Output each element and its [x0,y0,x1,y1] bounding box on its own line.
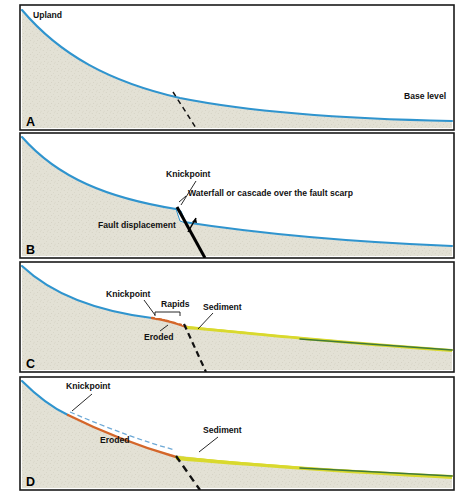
panel-c-label-rapids: Rapids [161,299,190,309]
panel-c: Knickpoint Rapids Eroded Sediment C [20,262,454,372]
panel-b-label-fault-displacement: Fault displacement [98,220,176,230]
panel-b: Knickpoint Waterfall or cascade over the… [20,133,454,258]
panel-c-label-sediment: Sediment [203,302,242,312]
panel-c-label-knickpoint: Knickpoint [106,289,151,299]
panel-d-label-knickpoint: Knickpoint [66,381,111,391]
panel-b-letter: B [26,243,35,257]
panel-a-label-upland: Upland [33,10,62,20]
panel-b-label-waterfall: Waterfall or cascade over the fault scar… [188,188,353,198]
panel-d: Knickpoint Eroded Sediment D [20,377,454,490]
panel-a-letter: A [26,115,35,129]
panel-d-label-sediment: Sediment [203,425,242,435]
panel-c-label-eroded: Eroded [144,332,174,342]
panel-d-label-eroded: Eroded [100,435,130,445]
panel-a: Upland Base level A [20,5,454,130]
panel-d-letter: D [26,475,35,489]
panel-a-label-base-level: Base level [404,91,446,101]
panel-c-letter: C [26,357,35,371]
geology-diagram: Upland Base level A Knickpoint Waterfall… [0,0,474,499]
figure-container: Upland Base level A Knickpoint Waterfall… [0,0,474,499]
panel-b-label-knickpoint: Knickpoint [166,169,211,179]
